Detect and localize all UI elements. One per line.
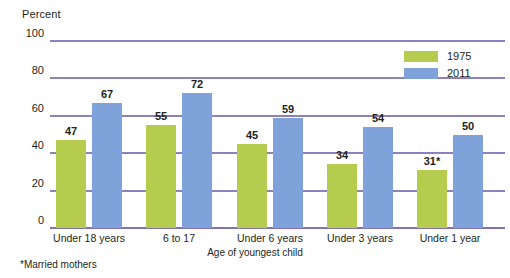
bar-2011-under-18-years — [92, 103, 122, 228]
y-tick-label-20: 20 — [0, 177, 44, 189]
bar-value-1975-6-to-17: 55 — [138, 110, 184, 122]
bar-1975-6-to-17 — [146, 125, 176, 228]
y-tick-label-60: 60 — [0, 102, 44, 114]
bar-1975-under-1-year — [417, 170, 447, 228]
category-label-0: Under 18 years — [39, 232, 139, 244]
x-axis-title: Age of youngest child — [0, 247, 510, 258]
bar-value-1975-under-6-years: 45 — [229, 129, 275, 141]
legend-label-1975: 1975 — [447, 50, 471, 62]
category-label-1: 6 to 17 — [129, 232, 229, 244]
bar-value-1975-under-1-year: 31* — [409, 155, 455, 167]
bar-1975-under-6-years — [237, 144, 267, 228]
category-label-3: Under 3 years — [310, 232, 410, 244]
legend-swatch-1975-icon — [404, 51, 438, 62]
bar-2011-6-to-17 — [182, 93, 212, 228]
bar-value-2011-under-6-years: 59 — [265, 103, 311, 115]
y-tick-label-0: 0 — [0, 214, 44, 226]
legend-swatch-2011-icon — [404, 68, 438, 79]
gridline-100 — [50, 40, 505, 42]
y-axis-title: Percent — [22, 8, 61, 20]
bar-value-2011-under-3-years: 54 — [355, 112, 401, 124]
bar-value-2011-under-18-years: 67 — [84, 88, 130, 100]
y-tick-label-80: 80 — [0, 64, 44, 76]
y-tick-label-40: 40 — [0, 139, 44, 151]
bar-chart: Percent 1975 2011 Age of youngest child … — [0, 0, 510, 278]
bar-1975-under-3-years — [327, 164, 357, 228]
category-label-4: Under 1 year — [400, 232, 500, 244]
bar-value-2011-under-1-year: 50 — [445, 120, 491, 132]
bar-value-2011-6-to-17: 72 — [174, 78, 220, 90]
y-tick-label-100: 100 — [0, 27, 44, 39]
bar-value-1975-under-3-years: 34 — [319, 149, 365, 161]
bar-value-1975-under-18-years: 47 — [48, 125, 94, 137]
legend-item-1975: 1975 — [404, 49, 500, 63]
chart-footnote: *Married mothers — [20, 259, 97, 270]
category-label-2: Under 6 years — [220, 232, 320, 244]
bar-1975-under-18-years — [56, 140, 86, 228]
legend: 1975 2011 — [404, 49, 500, 83]
legend-item-2011: 2011 — [404, 66, 500, 80]
bar-2011-under-6-years — [273, 118, 303, 228]
bar-2011-under-3-years — [363, 127, 393, 228]
bar-2011-under-1-year — [453, 135, 483, 229]
legend-label-2011: 2011 — [447, 67, 471, 79]
